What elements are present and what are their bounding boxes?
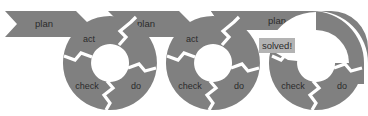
pdca-cycle-2: act do check <box>166 16 260 110</box>
pdca-cycle-1-label-check: check <box>75 81 99 91</box>
plan-banner-3-label: plan <box>268 15 286 26</box>
pdca-cycle-2-ring <box>166 16 260 110</box>
plan-banner-1-label: plan <box>35 18 53 29</box>
pdca-cycle-1-label-act: act <box>83 34 96 44</box>
pdca-cycle-1-ring <box>63 16 157 110</box>
solved-callout-label: solved! <box>262 40 292 51</box>
pdca-cycle-1: act do check <box>63 16 157 110</box>
pdca-cycle-2-label-act: act <box>186 34 199 44</box>
pdca-cycle-2-label-check: check <box>178 81 202 91</box>
pdca-diagram-canvas: plan plan plan <box>0 0 368 116</box>
pdca-cycle-2-label-do: do <box>234 81 244 91</box>
pdca-cycle-1-label-do: do <box>131 81 141 91</box>
pdca-cycle-diagram: plan plan plan <box>0 0 368 116</box>
pdca-cycle-3-label-do: do <box>337 81 347 91</box>
pdca-cycle-3-label-check: check <box>281 81 305 91</box>
solved-callout: solved! <box>259 38 295 53</box>
